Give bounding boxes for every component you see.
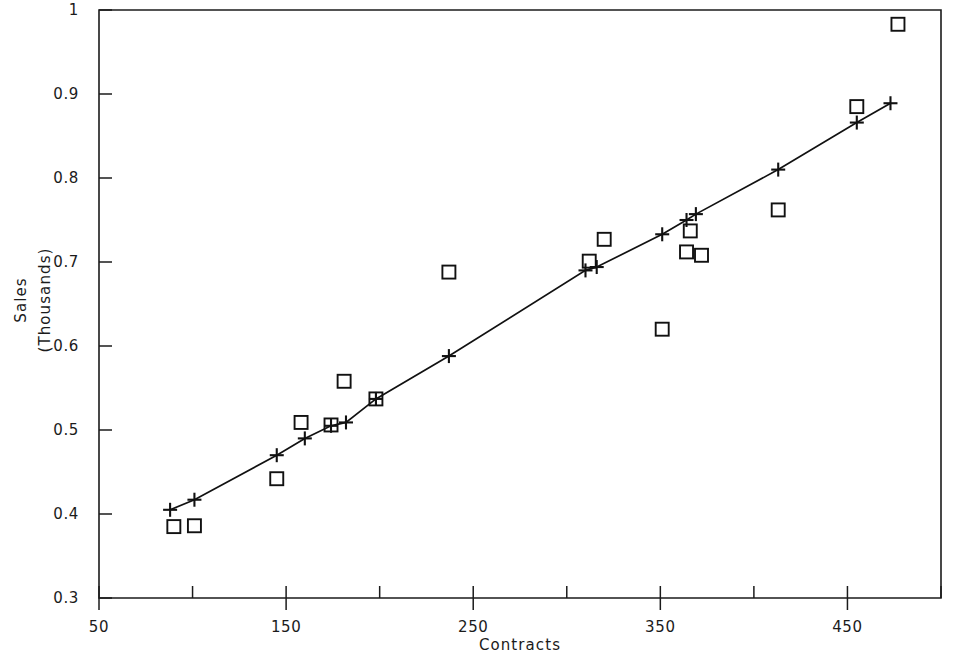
fitted-point-marker: [655, 227, 669, 241]
fitted-point-marker: [771, 163, 785, 177]
fitted-point-marker: [163, 503, 177, 517]
fitted-point-marker: [187, 493, 201, 507]
fitted-point-marker: [442, 349, 456, 363]
observed-point-marker: [850, 100, 863, 113]
y-tick-label: 0.7: [53, 253, 79, 271]
x-axis-title: Contracts: [479, 636, 561, 654]
fitted-point-marker: [883, 96, 897, 110]
observed-point-marker: [891, 18, 904, 31]
x-tick-label: 250: [458, 618, 488, 636]
observed-point-marker: [270, 472, 283, 485]
y-tick-label: 0.3: [53, 589, 79, 607]
y-axis-title-line2: (Thousands): [36, 247, 54, 352]
observed-point-marker: [442, 266, 455, 279]
observed-point-marker: [598, 233, 611, 246]
observed-point-marker: [338, 375, 351, 388]
regression-line: [170, 103, 890, 510]
y-tick-label: 0.8: [53, 169, 79, 187]
observed-point-marker: [695, 249, 708, 262]
x-tick-label: 50: [89, 618, 109, 636]
fitted-data-markers: [163, 96, 897, 517]
fitted-point-marker: [578, 263, 592, 277]
fitted-point-marker: [590, 260, 604, 274]
y-tick-label: 0.5: [53, 421, 79, 439]
fitted-point-marker: [298, 431, 312, 445]
plot-frame: [99, 10, 941, 598]
scatter-plot: 0.30.40.50.60.70.80.91 50150250350450 Co…: [0, 0, 961, 663]
observed-point-marker: [167, 520, 180, 533]
observed-point-marker: [772, 203, 785, 216]
y-tick-label: 0.4: [53, 505, 79, 523]
y-axis-title-line1: Sales: [12, 277, 30, 322]
y-tick-label: 0.9: [53, 85, 79, 103]
observed-point-marker: [680, 245, 693, 258]
x-axis-ticks: 50150250350450: [89, 586, 941, 636]
x-tick-label: 450: [832, 618, 862, 636]
x-tick-label: 350: [645, 618, 675, 636]
x-tick-label: 150: [271, 618, 301, 636]
observed-point-marker: [188, 519, 201, 532]
fitted-regression-line: [170, 103, 890, 510]
y-tick-label: 0.6: [53, 337, 79, 355]
observed-point-marker: [656, 323, 669, 336]
y-axis-ticks: 0.30.40.50.60.70.80.91: [53, 1, 112, 607]
chart-figure: 0.30.40.50.60.70.80.91 50150250350450 Co…: [0, 0, 961, 663]
fitted-point-marker: [850, 116, 864, 130]
observed-point-marker: [295, 416, 308, 429]
fitted-point-marker: [270, 448, 284, 462]
y-tick-label: 1: [69, 1, 79, 19]
